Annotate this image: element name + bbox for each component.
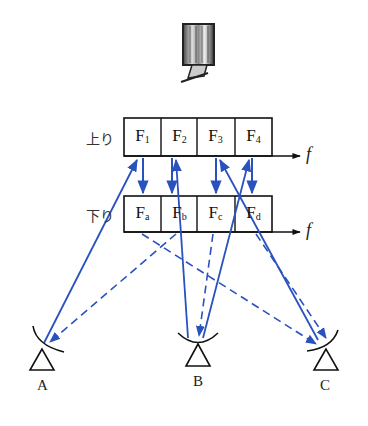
station-b-label: B bbox=[193, 373, 203, 390]
downlink-axis-label: f bbox=[306, 220, 311, 241]
uplink-axis-label: f bbox=[306, 144, 311, 165]
station-b-antenna-icon bbox=[178, 333, 218, 366]
uplink-channel-f4: F4 bbox=[235, 126, 272, 146]
downlink-channel-fa: Fa bbox=[124, 203, 161, 223]
downlink-channel-fb: Fb bbox=[161, 203, 198, 223]
uplink-signals bbox=[44, 160, 318, 343]
station-a-label: A bbox=[37, 377, 48, 394]
satellite-icon bbox=[181, 24, 214, 82]
station-c-antenna-icon bbox=[307, 330, 338, 370]
station-c-label: C bbox=[320, 377, 330, 394]
uplink-channel-f3: F3 bbox=[197, 126, 234, 146]
uplink-band-label: 上り bbox=[86, 128, 114, 148]
station-a-antenna-icon bbox=[30, 326, 64, 370]
downlink-channel-fd: Fd bbox=[235, 203, 272, 223]
downlink-band-label: 下り bbox=[86, 205, 114, 225]
downlink-channel-fc: Fc bbox=[197, 203, 234, 223]
uplink-channel-f2: F2 bbox=[161, 126, 198, 146]
uplink-channel-f1: F1 bbox=[124, 126, 161, 146]
